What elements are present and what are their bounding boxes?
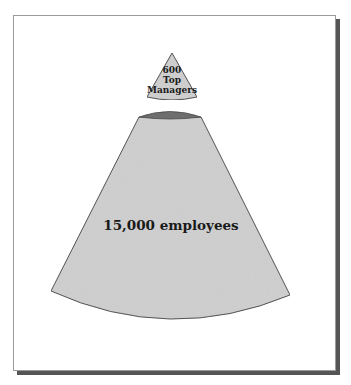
bottom-cone-cap [139, 112, 201, 120]
top-cone-label-line-3: Managers [147, 85, 197, 95]
top-cone-label-line-1: 600 [163, 65, 182, 75]
top-cone-label-line-2: Top [163, 75, 181, 85]
bottom-cone-label: 15,000 employees [103, 217, 239, 233]
employees-cone: 15,000 employees [51, 112, 290, 320]
top-managers-cone: 600 Top Managers [147, 53, 197, 100]
hierarchy-diagram: 600 Top Managers 15,000 employees [0, 0, 351, 385]
